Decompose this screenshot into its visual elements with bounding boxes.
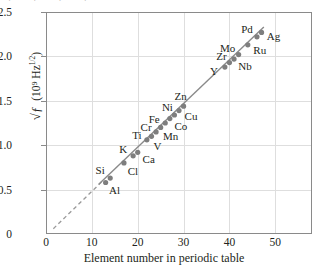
data-point-Y (222, 64, 227, 69)
point-label-Fe: Fe (149, 113, 160, 125)
point-label-Nb: Nb (238, 60, 251, 72)
point-label-V: V (153, 140, 161, 152)
extrapolation-dashed-line (53, 181, 103, 229)
point-label-Mn: Mn (163, 130, 178, 142)
y-tick-0: 0 (0, 228, 12, 240)
y-tick-2.5: 2.5 (0, 6, 12, 18)
data-point-Cr (153, 129, 158, 134)
x-tick-20: 20 (132, 236, 144, 248)
y-tick-mark (41, 56, 46, 57)
x-tick-50: 50 (270, 236, 282, 248)
point-label-Ca: Ca (143, 153, 155, 165)
data-point-Ti (144, 137, 149, 142)
data-point-Nb (231, 56, 236, 61)
point-label-Ru: Ru (253, 44, 266, 56)
data-point-Cu (176, 108, 181, 113)
y-tick-0.5: 0.5 (0, 184, 12, 196)
data-point-Ag (259, 30, 264, 35)
y-tick-mark (41, 101, 46, 102)
data-point-Zn (181, 104, 186, 109)
data-point-Zr (227, 60, 232, 65)
x-tick-0: 0 (43, 236, 49, 248)
x-tick-40: 40 (224, 236, 236, 248)
data-point-Cl (121, 160, 126, 165)
data-point-Ni (172, 112, 177, 117)
point-label-Si: Si (96, 164, 105, 176)
data-point-Mo (236, 52, 241, 57)
moseley-plot-figure: · · · · √ƒ (10⁹ Hz1/2) SiAlClKCaTiVCrMnF… (0, 0, 328, 275)
point-label-Cl: Cl (128, 165, 138, 177)
point-label-Pd: Pd (241, 23, 253, 35)
data-point-Ca (135, 150, 140, 155)
y-tick-1.0: 1.0 (0, 139, 12, 151)
data-point-Si (108, 175, 113, 180)
data-point-Fe (163, 120, 168, 125)
data-point-Pd (254, 34, 259, 39)
point-label-Zn: Zn (174, 90, 186, 102)
point-label-K: K (119, 143, 127, 155)
data-point-V (149, 134, 154, 139)
y-tick-mark (41, 145, 46, 146)
data-point-Al (103, 180, 108, 185)
data-point-Co (167, 116, 172, 121)
x-tick-10: 10 (86, 236, 98, 248)
y-tick-1.5: 1.5 (0, 95, 12, 107)
point-label-Mo: Mo (220, 42, 235, 54)
point-label-Y: Y (210, 65, 218, 77)
point-label-Ni: Ni (162, 101, 173, 113)
y-tick-2.0: 2.0 (0, 50, 12, 62)
point-label-Ag: Ag (267, 30, 280, 42)
point-label-Al: Al (109, 184, 120, 196)
x-axis-label: Element number in periodic table (0, 251, 328, 266)
y-tick-mark (41, 190, 46, 191)
data-point-K (131, 153, 136, 158)
point-label-Cu: Cu (185, 110, 198, 122)
data-point-Mn (158, 125, 163, 130)
x-tick-30: 30 (178, 236, 190, 248)
y-tick-mark (41, 12, 46, 13)
data-point-Ru (245, 42, 250, 47)
